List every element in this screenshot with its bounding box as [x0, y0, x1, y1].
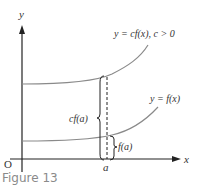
origin-label: O [4, 158, 12, 170]
graph-diagram: y x O a y = cf(x), c > 0 y = f(x) cf(a) … [0, 0, 199, 188]
brace-cf-a [97, 76, 104, 160]
brace-f-a [110, 136, 117, 160]
figure-caption: Figure 13 [2, 171, 58, 185]
curve-f [22, 107, 158, 141]
a-label: a [103, 161, 109, 173]
curve-cf [22, 45, 148, 84]
x-axis-label: x [183, 153, 189, 165]
curve-cf-label: y = cf(x), c > 0 [113, 28, 175, 40]
y-axis-label: y [18, 8, 24, 20]
x-axis-arrow-icon [172, 156, 181, 162]
cf-a-label: cf(a) [69, 113, 89, 125]
f-a-label: f(a) [118, 141, 133, 153]
curve-f-label: y = f(x) [149, 93, 181, 105]
y-axis-arrow-icon [19, 25, 25, 34]
